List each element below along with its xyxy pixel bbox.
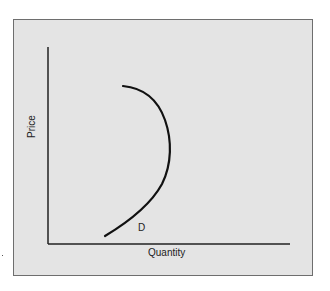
demand-curve: [105, 86, 170, 236]
stray-mark: [2, 255, 3, 256]
x-axis-label: Quantity: [148, 247, 185, 258]
y-axis-label: Price: [26, 115, 37, 138]
curve-label: D: [138, 222, 145, 233]
